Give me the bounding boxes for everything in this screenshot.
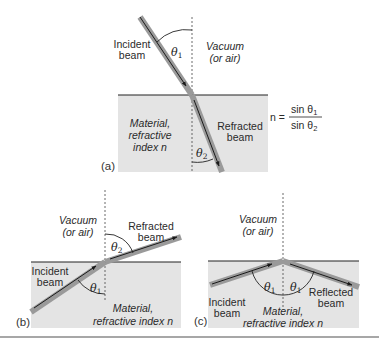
svg-text:Material,refractiveindex n: Material,refractiveindex n <box>128 117 171 153</box>
panel-letter-b: (b) <box>16 316 30 328</box>
svg-text:Incidentbeam: Incidentbeam <box>114 38 151 61</box>
panel-letter-a: (a) <box>101 160 115 172</box>
svg-text:Vacuum(or air): Vacuum(or air) <box>206 40 244 64</box>
upper-medium-label-c: Vacuum <box>239 213 277 225</box>
svg-text:sin θ1: sin θ1 <box>291 103 317 117</box>
svg-text:n =: n = <box>270 111 285 123</box>
refraction-diagram: Incidentbeam θ1 Vacuum(or air) Material,… <box>0 0 379 359</box>
material-label-c: Material, <box>263 305 303 317</box>
panel-c: Vacuum(or air) θ1 θ1 Reflectedbeam Incid… <box>194 193 359 329</box>
svg-text:Vacuum(or air): Vacuum(or air) <box>239 213 277 237</box>
theta2-label-b: θ2 <box>111 241 123 255</box>
upper-medium-label-a: Vacuum <box>206 40 244 52</box>
svg-text:sin θ2: sin θ2 <box>291 119 317 133</box>
panel-b: Vacuum(or air) Refractedbeam θ2 Incident… <box>16 190 181 328</box>
angle-arc-theta1-a <box>157 30 192 42</box>
panel-a: Incidentbeam θ1 Vacuum(or air) Material,… <box>101 17 322 172</box>
material-label-a: Material, <box>130 117 170 129</box>
svg-text:Vacuum(or air): Vacuum(or air) <box>59 214 97 238</box>
theta1-label-a: θ1 <box>171 46 182 60</box>
panel-letter-c: (c) <box>194 315 208 327</box>
svg-text:Incidentbeam: Incidentbeam <box>32 265 69 288</box>
snell-equation: n = sin θ1 sin θ2 <box>270 103 322 133</box>
material-label-b: Material, <box>113 302 153 314</box>
upper-medium-label-b: Vacuum <box>59 214 97 226</box>
svg-text:Incidentbeam: Incidentbeam <box>209 296 246 319</box>
